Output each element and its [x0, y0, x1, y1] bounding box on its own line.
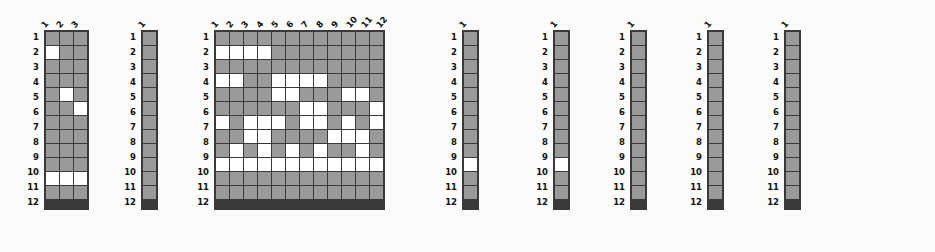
matrix-cell-empty[interactable]	[300, 74, 313, 87]
matrix-cell-filled[interactable]	[328, 88, 341, 101]
matrix-cell-filled[interactable]	[230, 88, 243, 101]
matrix-cell-filled[interactable]	[342, 46, 355, 59]
matrix-cell-empty[interactable]	[314, 74, 327, 87]
matrix-cell-empty[interactable]	[342, 130, 355, 143]
matrix-cell-empty[interactable]	[230, 46, 243, 59]
matrix-cell-empty[interactable]	[300, 116, 313, 129]
matrix-cell-filled[interactable]	[46, 186, 59, 199]
matrix-cell-filled[interactable]	[46, 144, 59, 157]
matrix-cell-filled[interactable]	[356, 32, 369, 45]
matrix-cell-filled[interactable]	[300, 88, 313, 101]
matrix-cell-empty[interactable]	[258, 116, 271, 129]
matrix-cell-filled[interactable]	[300, 32, 313, 45]
matrix-cell-filled[interactable]	[74, 116, 87, 129]
matrix-cell-filled[interactable]	[46, 102, 59, 115]
matrix-cell-filled[interactable]	[356, 74, 369, 87]
matrix-cell-empty[interactable]	[244, 158, 257, 171]
matrix-cell-empty[interactable]	[342, 158, 355, 171]
matrix-cell-filled[interactable]	[300, 46, 313, 59]
matrix-cell-filled[interactable]	[328, 186, 341, 199]
matrix-cell-filled[interactable]	[216, 32, 229, 45]
matrix-cell-filled[interactable]	[632, 60, 645, 73]
matrix-cell-empty[interactable]	[300, 158, 313, 171]
matrix-cell-filled[interactable]	[60, 60, 73, 73]
matrix-cell-filled[interactable]	[786, 186, 799, 199]
matrix-cell-filled[interactable]	[230, 130, 243, 143]
matrix-cell-filled[interactable]	[370, 46, 383, 59]
matrix-cell-filled[interactable]	[286, 60, 299, 73]
matrix-cell-filled[interactable]	[244, 60, 257, 73]
matrix-cell-filled[interactable]	[342, 172, 355, 185]
matrix-cell-filled[interactable]	[342, 60, 355, 73]
matrix-cell-empty[interactable]	[216, 116, 229, 129]
matrix-cell-filled[interactable]	[370, 60, 383, 73]
matrix-cell-empty[interactable]	[370, 158, 383, 171]
matrix-cell-filled[interactable]	[46, 130, 59, 143]
matrix-1-grid[interactable]	[44, 30, 89, 210]
matrix-cell-filled[interactable]	[300, 130, 313, 143]
matrix-cell-filled[interactable]	[555, 88, 568, 101]
matrix-cell-empty[interactable]	[60, 88, 73, 101]
matrix-cell-empty[interactable]	[356, 158, 369, 171]
matrix-cell-filled[interactable]	[709, 172, 722, 185]
matrix-cell-empty[interactable]	[328, 130, 341, 143]
matrix-cell-filled[interactable]	[300, 60, 313, 73]
matrix-cell-filled[interactable]	[370, 32, 383, 45]
matrix-cell-filled[interactable]	[464, 116, 477, 129]
matrix-cell-empty[interactable]	[272, 74, 285, 87]
matrix-cell-filled[interactable]	[143, 32, 156, 45]
matrix-cell-filled[interactable]	[314, 130, 327, 143]
matrix-cell-filled[interactable]	[786, 74, 799, 87]
matrix-cell-filled[interactable]	[258, 32, 271, 45]
matrix-cell-empty[interactable]	[230, 74, 243, 87]
matrix-cell-filled[interactable]	[464, 60, 477, 73]
matrix-cell-filled[interactable]	[328, 60, 341, 73]
matrix-cell-filled[interactable]	[230, 116, 243, 129]
matrix-cell-filled[interactable]	[342, 74, 355, 87]
matrix-cell-empty[interactable]	[328, 158, 341, 171]
matrix-cell-filled[interactable]	[143, 74, 156, 87]
matrix-cell-filled[interactable]	[60, 144, 73, 157]
matrix-cell-filled[interactable]	[143, 102, 156, 115]
matrix-cell-empty[interactable]	[74, 102, 87, 115]
matrix-cell-filled[interactable]	[555, 46, 568, 59]
matrix-cell-filled[interactable]	[216, 130, 229, 143]
matrix-cell-filled[interactable]	[314, 88, 327, 101]
matrix-cell-filled[interactable]	[60, 186, 73, 199]
matrix-cell-empty[interactable]	[286, 88, 299, 101]
matrix-cell-empty[interactable]	[230, 144, 243, 157]
matrix-cell-filled[interactable]	[632, 46, 645, 59]
matrix-cell-filled[interactable]	[370, 186, 383, 199]
matrix-cell-filled[interactable]	[328, 116, 341, 129]
matrix-cell-filled[interactable]	[74, 32, 87, 45]
matrix-cell-filled[interactable]	[555, 60, 568, 73]
matrix-cell-filled[interactable]	[709, 144, 722, 157]
matrix-cell-filled[interactable]	[286, 32, 299, 45]
matrix-cell-filled[interactable]	[244, 88, 257, 101]
matrix-cell-empty[interactable]	[286, 158, 299, 171]
matrix-cell-filled[interactable]	[464, 88, 477, 101]
matrix-cell-filled[interactable]	[300, 144, 313, 157]
matrix-cell-empty[interactable]	[314, 158, 327, 171]
matrix-cell-filled[interactable]	[464, 186, 477, 199]
matrix-cell-filled[interactable]	[244, 172, 257, 185]
matrix-cell-filled[interactable]	[709, 186, 722, 199]
matrix-cell-filled[interactable]	[464, 172, 477, 185]
matrix-cell-filled[interactable]	[314, 46, 327, 59]
matrix-cell-filled[interactable]	[464, 130, 477, 143]
matrix-cell-filled[interactable]	[632, 158, 645, 171]
matrix-2-grid[interactable]	[141, 30, 158, 210]
matrix-cell-filled[interactable]	[143, 158, 156, 171]
matrix-cell-filled[interactable]	[709, 158, 722, 171]
matrix-cell-filled[interactable]	[244, 102, 257, 115]
matrix-cell-filled[interactable]	[74, 158, 87, 171]
matrix-cell-empty[interactable]	[244, 130, 257, 143]
matrix-cell-filled[interactable]	[216, 88, 229, 101]
matrix-cell-filled[interactable]	[143, 116, 156, 129]
matrix-cell-filled[interactable]	[328, 32, 341, 45]
matrix-cell-filled[interactable]	[258, 172, 271, 185]
matrix-cell-filled[interactable]	[464, 46, 477, 59]
matrix-cell-filled[interactable]	[143, 172, 156, 185]
matrix-cell-empty[interactable]	[74, 172, 87, 185]
matrix-cell-filled[interactable]	[709, 130, 722, 143]
